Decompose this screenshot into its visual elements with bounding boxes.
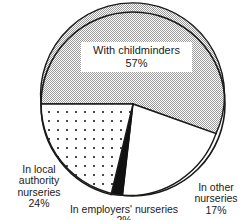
slice-label-with-childminders: With childminders 57% — [81, 42, 192, 72]
slice-label-with-childminders-name: With childminders — [93, 44, 180, 56]
slice-label-in-employers-nurseries-value: 2% — [62, 215, 186, 220]
slice-label-in-other-nurseries-value: 17% — [186, 205, 246, 217]
slice-label-in-employers-nurseries: In employers' nurseries 2% — [62, 192, 186, 220]
slice-label-in-other-nurseries-name: In other nurseries — [194, 181, 237, 205]
slice-label-in-local-authority-nurseries-name: In local authority nurseries — [17, 163, 60, 198]
slice-label-in-other-nurseries: In other nurseries 17% — [186, 170, 246, 220]
slice-label-with-childminders-value: 57% — [82, 57, 191, 70]
pie-chart-figure: With childminders 57% In local authority… — [0, 0, 248, 220]
slice-label-in-employers-nurseries-name: In employers' nurseries — [70, 203, 178, 215]
